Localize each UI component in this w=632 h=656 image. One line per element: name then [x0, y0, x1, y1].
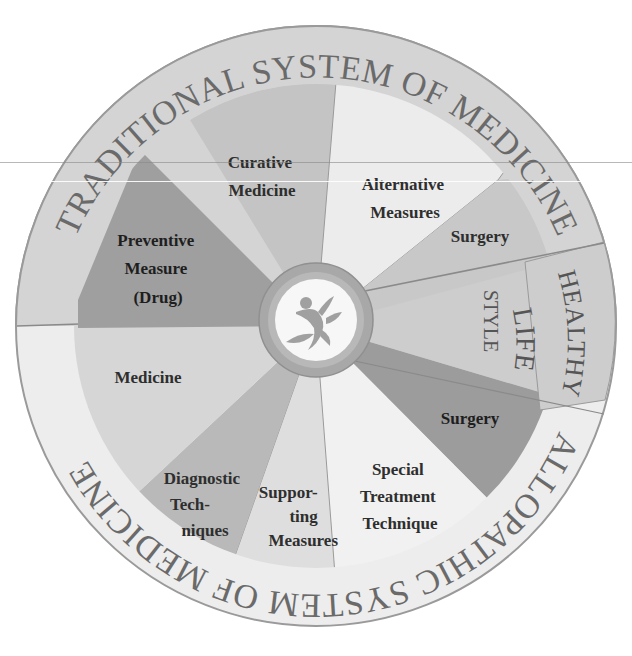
label-special-treatment-technique: Special Treatment Technique	[360, 460, 440, 533]
center-hub	[259, 263, 373, 377]
label-surgery-allopathic: Surgery	[441, 409, 500, 428]
label-surgery-traditional: Surgery	[451, 227, 510, 246]
label-medicine: Medicine	[114, 368, 181, 387]
life-label: LIFE	[507, 305, 542, 373]
scan-line-light	[0, 181, 632, 182]
scan-line-dark	[0, 162, 632, 163]
style-label: STYLE	[480, 290, 502, 352]
medicine-systems-wheel: TRADITIONAL SYSTEM OF MEDICINE ALLOPATHI…	[0, 0, 632, 656]
